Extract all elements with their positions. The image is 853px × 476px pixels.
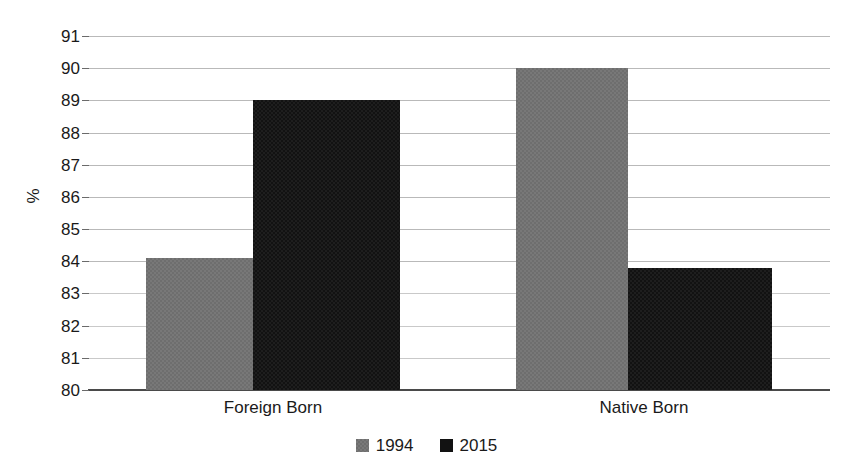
y-tick-label-81: 81 — [40, 350, 80, 367]
gridline-90 — [88, 68, 830, 69]
gridline-87 — [88, 165, 830, 166]
y-tick-dash-84 — [82, 261, 89, 262]
legend-label-1994: 1994 — [376, 437, 414, 454]
y-tick-dash-89 — [82, 100, 89, 101]
y-tick-label-91: 91 — [40, 28, 80, 45]
y-tick-dash-85 — [82, 229, 89, 230]
y-tick-label-87: 87 — [40, 157, 80, 174]
y-tick-label-80: 80 — [40, 382, 80, 399]
gridline-85 — [88, 229, 830, 230]
y-tick-dash-82 — [82, 326, 89, 327]
y-axis-tick-labels: 919089888786858483828180 — [36, 36, 80, 390]
bar-native-born-2015 — [628, 268, 772, 390]
bar-chart: % 919089888786858483828180 Foreign Born … — [0, 0, 853, 476]
y-tick-label-86: 86 — [40, 189, 80, 206]
y-tick-label-83: 83 — [40, 285, 80, 302]
y-tick-label-84: 84 — [40, 253, 80, 270]
legend-item-2015[interactable]: 2015 — [440, 437, 498, 454]
gridline-88 — [88, 133, 830, 134]
legend-swatch-2015-icon — [440, 439, 453, 452]
y-tick-dash-86 — [82, 197, 89, 198]
y-tick-dash-87 — [82, 165, 89, 166]
y-tick-label-82: 82 — [40, 318, 80, 335]
bar-foreign-born-2015 — [253, 100, 400, 390]
category-label-native-born: Native Born — [516, 398, 772, 418]
y-tick-label-88: 88 — [40, 125, 80, 142]
bar-native-born-1994 — [516, 68, 628, 390]
y-tick-dash-91 — [82, 36, 89, 37]
legend-item-1994[interactable]: 1994 — [356, 437, 414, 454]
chart-legend: 1994 2015 — [0, 437, 853, 454]
gridline-86 — [88, 197, 830, 198]
y-tick-dash-90 — [82, 68, 89, 69]
y-tick-dash-83 — [82, 293, 89, 294]
category-label-foreign-born: Foreign Born — [146, 398, 400, 418]
legend-label-2015: 2015 — [460, 437, 498, 454]
y-tick-dash-80 — [82, 390, 89, 391]
legend-swatch-1994-icon — [356, 439, 369, 452]
gridline-89 — [88, 100, 830, 101]
gridline-91 — [88, 36, 830, 37]
y-tick-dash-81 — [82, 358, 89, 359]
plot-area — [88, 36, 830, 390]
y-tick-label-89: 89 — [40, 92, 80, 109]
bar-foreign-born-1994 — [146, 258, 253, 390]
y-tick-label-90: 90 — [40, 60, 80, 77]
y-tick-dash-88 — [82, 133, 89, 134]
y-tick-label-85: 85 — [40, 221, 80, 238]
